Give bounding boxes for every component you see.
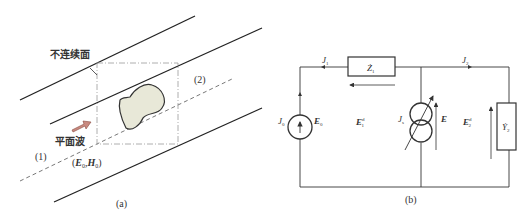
controlled-source-js-upper <box>410 103 432 125</box>
j0-wire-arrow-icon <box>298 92 302 96</box>
region-1-label: (1) <box>35 151 47 163</box>
j2-arrow-icon <box>468 65 472 69</box>
discontinuity-label: 不连续面 <box>50 48 90 60</box>
j0-label: J0 <box>278 116 285 127</box>
js-label: Js <box>398 114 404 125</box>
caption-a: (a) <box>116 198 127 210</box>
plane-wave-arrow-icon <box>72 121 91 132</box>
j1-arrow-icon <box>321 65 325 69</box>
j1-label: J1 <box>322 55 329 66</box>
e0-label: E0 <box>313 116 323 127</box>
plane-wave-label: 平面波 <box>55 135 86 147</box>
discontinuity-pointer <box>90 68 97 75</box>
controlled-source-js-lower <box>410 120 432 142</box>
propagation-axis-dashed <box>20 79 232 181</box>
e1d-label: Ed1 <box>355 117 365 128</box>
discontinuity-line-top <box>20 16 195 100</box>
figure-canvas: 不连续面 平面波 (1) (2) (E0,H0) (a) Ż1 J1 J2 J0 <box>0 0 528 219</box>
figure-a: 不连续面 平面波 (1) (2) (E0,H0) (a) <box>20 16 262 210</box>
region-2-label: (2) <box>194 74 206 86</box>
e-label: E <box>440 114 447 124</box>
incident-field-label: (E0,H0) <box>72 157 102 169</box>
e2d-label: Ed2 <box>462 117 472 128</box>
caption-b: (b) <box>405 194 417 206</box>
figure-b: Ż1 J1 J2 J0 E0 Ed1 Js E Ed2 Ẏ2 (b) <box>278 55 516 206</box>
j2-label: J2 <box>462 55 469 66</box>
